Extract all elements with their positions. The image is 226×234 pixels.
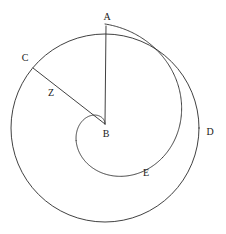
radius-segment-bc — [33, 68, 105, 124]
radius-segment-ba — [105, 26, 106, 124]
point-label-e: E — [143, 168, 149, 178]
archimedean-spiral-outer-turn — [105, 24, 182, 157]
point-label-c: C — [22, 53, 29, 63]
archimedean-spiral-pole-turn — [76, 115, 105, 141]
point-label-b: B — [103, 129, 110, 139]
point-label-d: D — [206, 127, 213, 137]
geometry-figure — [0, 0, 226, 234]
diagram-canvas: A B C D E Z — [0, 0, 226, 234]
point-label-a: A — [103, 12, 110, 22]
archimedean-spiral-inner-turn — [76, 141, 163, 177]
point-label-z: Z — [48, 88, 54, 98]
